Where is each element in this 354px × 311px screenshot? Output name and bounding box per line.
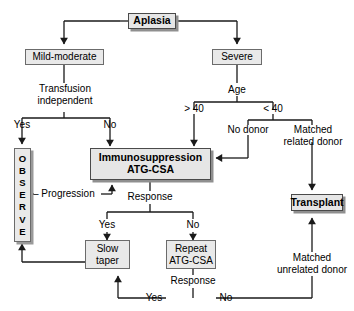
node-slow-taper[interactable]: Slow taper (85, 240, 130, 269)
node-slow-taper-label: Slow taper (96, 243, 119, 265)
observe-letter-e1: E (19, 190, 25, 200)
label-yes-left: Yes (9, 119, 35, 131)
label-matched-related-donor: Matched related donor (281, 124, 345, 147)
label-yes-mid: Yes (94, 219, 120, 231)
node-observe[interactable]: O B S E R V E (14, 148, 31, 242)
node-mild-moderate[interactable]: Mild-moderate (25, 49, 104, 65)
node-immunosuppression[interactable]: Immunosuppression ATG-CSA (90, 148, 211, 180)
observe-letter-s: S (19, 178, 25, 188)
label-response-top: Response (124, 191, 176, 203)
flowchart-canvas: Aplasia Mild-moderate Severe Immunosuppr… (0, 0, 354, 311)
label-no-mid: No (181, 219, 205, 231)
label-yes-bottom: Yes (141, 292, 167, 304)
node-severe-label: Severe (221, 51, 253, 62)
node-transplant-label: Transplant (290, 197, 343, 209)
node-repeat-atg-csa-label: Repeat ATG-CSA (169, 243, 213, 265)
node-severe[interactable]: Severe (212, 49, 262, 65)
label-no-left: No (98, 119, 122, 131)
observe-letter-e2: E (19, 227, 25, 237)
label-greater-than-40: > 40 (179, 103, 209, 115)
label-no-donor: No donor (222, 124, 274, 136)
observe-letter-v: V (19, 215, 25, 225)
label-age: Age (221, 84, 253, 96)
node-aplasia[interactable]: Aplasia (128, 13, 176, 29)
node-immunosuppression-label: Immunosuppression ATG-CSA (99, 152, 202, 176)
node-repeat-atg-csa[interactable]: Repeat ATG-CSA (166, 240, 216, 269)
node-aplasia-label: Aplasia (133, 15, 170, 27)
label-no-bottom: No (214, 292, 238, 304)
observe-letter-r: R (19, 202, 26, 212)
observe-letter-o: O (19, 154, 26, 164)
label-response-bottom: Response (167, 275, 219, 287)
label-transfusion-independent: Transfusion independent (26, 83, 104, 106)
node-mild-moderate-label: Mild-moderate (33, 51, 97, 62)
label-matched-unrelated-donor: Matched unrelated donor (272, 252, 352, 275)
observe-letter-b: B (19, 166, 26, 176)
label-progression: – Progression (33, 188, 103, 200)
node-transplant[interactable]: Transplant (291, 194, 343, 211)
label-less-than-40: < 40 (258, 103, 288, 115)
